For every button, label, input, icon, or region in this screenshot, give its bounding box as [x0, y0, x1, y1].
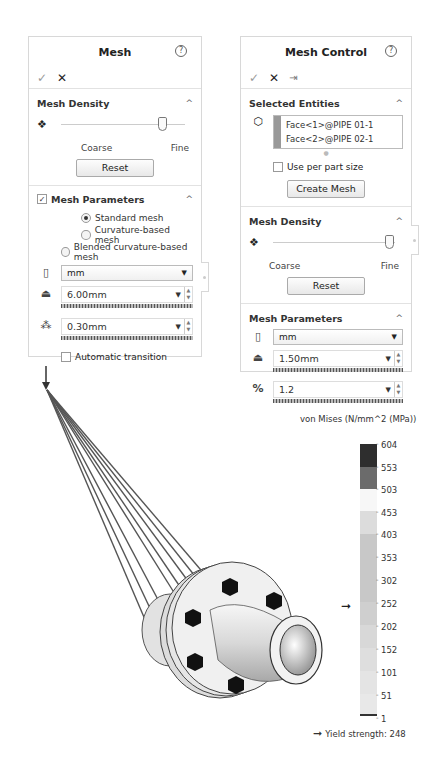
tick-label: 453: [381, 508, 397, 518]
collapse-caret-icon[interactable]: ^: [185, 98, 193, 108]
dropdown-arrow-icon[interactable]: ▼: [176, 323, 181, 331]
tolerance-spinbox[interactable]: 0.30mm ▼▲▼: [61, 318, 193, 335]
section-title: Selected Entities: [249, 98, 340, 109]
radio-standard-mesh[interactable]: Standard mesh: [37, 209, 193, 226]
collapse-caret-icon[interactable]: ^: [395, 98, 403, 108]
collapse-caret-icon[interactable]: ^: [185, 194, 193, 204]
reset-button[interactable]: Reset: [287, 277, 365, 295]
reset-button[interactable]: Reset: [76, 159, 154, 177]
tick-label: 553: [381, 463, 397, 473]
tick-label: 1: [381, 714, 386, 724]
tick-label: 202: [381, 622, 397, 632]
colorbar-segment: [360, 534, 377, 556]
unit-ruler-icon: ▯: [249, 329, 267, 345]
mesh-control-panel: Mesh Control ? ✓ ✕ ⇥ Selected Entities ^…: [240, 36, 412, 372]
tick-label: 252: [381, 599, 397, 609]
mesh-density-icon: ❖: [249, 236, 259, 249]
colorbar-segment: [360, 625, 377, 648]
arrow-right-icon: ➞: [313, 727, 322, 740]
radio-button[interactable]: [81, 213, 91, 223]
unit-dropdown[interactable]: mm ▼: [273, 329, 403, 345]
size-ruler-slider[interactable]: [61, 304, 193, 308]
create-mesh-button[interactable]: Create Mesh: [287, 180, 365, 198]
collapse-caret-icon[interactable]: ^: [395, 313, 403, 323]
radio-button[interactable]: [61, 247, 70, 257]
face-selection-icon: ⬡: [249, 115, 267, 149]
list-resize-handle[interactable]: ●: [249, 149, 403, 157]
tick-label: 302: [381, 576, 397, 586]
colorbar-segment: [360, 511, 377, 534]
action-bar: ✓ ✕ ⇥: [241, 67, 411, 89]
tick-label: 604: [381, 440, 397, 450]
yield-strength-label: Yield strength: 248: [325, 729, 406, 739]
colorbar-segment: [360, 648, 377, 671]
panel-title: Mesh: [99, 46, 132, 59]
colorbar-segment: [360, 467, 377, 489]
selection-color-bar: [274, 116, 281, 148]
section-title: Mesh Parameters: [249, 313, 343, 324]
dropdown-arrow-icon: ▼: [392, 333, 397, 341]
mesh-density-slider[interactable]: [61, 124, 185, 125]
use-per-part-size-checkbox[interactable]: [273, 162, 283, 172]
tolerance-ruler-slider[interactable]: [61, 336, 193, 340]
ok-checkmark-icon[interactable]: ✓: [37, 71, 47, 85]
dropdown-arrow-icon[interactable]: ▼: [386, 355, 391, 363]
section-title: Mesh Density: [249, 216, 321, 227]
panel-title: Mesh Control: [285, 46, 367, 59]
colorbar-segment: [360, 602, 377, 625]
selected-entities-section: Selected Entities ^ ⬡ Face<1>@PIPE 01-1 …: [241, 89, 411, 207]
spin-arrows-icon[interactable]: ▲▼: [394, 382, 402, 397]
section-title: Mesh Parameters: [51, 194, 145, 205]
radio-curvature-based-mesh[interactable]: Curvature-based mesh: [37, 226, 193, 243]
tick-label: 152: [381, 645, 397, 655]
cancel-x-icon[interactable]: ✕: [57, 71, 67, 85]
panel-resize-tab[interactable]: [201, 262, 209, 292]
spin-arrows-icon[interactable]: ▲▼: [184, 287, 192, 302]
selected-entities-list[interactable]: Face<1>@PIPE 01-1 Face<2>@PIPE 02-1: [273, 115, 403, 149]
tick-label: 503: [381, 485, 397, 495]
action-bar: ✓ ✕: [29, 67, 201, 89]
list-item[interactable]: Face<1>@PIPE 01-1: [286, 118, 374, 132]
colorbar-segment: [360, 489, 377, 511]
spin-arrows-icon[interactable]: ▲▼: [394, 351, 402, 366]
radio-blended-curvature-mesh[interactable]: Blended curvature-based mesh: [37, 243, 193, 260]
colorbar-segment: [360, 671, 377, 694]
collapse-caret-icon[interactable]: ^: [395, 216, 403, 226]
unit-dropdown[interactable]: mm ▼: [61, 265, 193, 281]
cancel-x-icon[interactable]: ✕: [269, 71, 279, 85]
mesh-density-section: Mesh Density ^ ❖ Coarse Fine Reset: [241, 207, 411, 304]
mesh-density-section: Mesh Density ^ ❖ Coarse Fine Reset: [29, 89, 201, 186]
mesh-panel: Mesh ? ✓ ✕ Mesh Density ^ ❖ Coarse Fine …: [28, 36, 202, 357]
slider-thumb[interactable]: [385, 235, 394, 249]
ok-checkmark-icon[interactable]: ✓: [249, 71, 259, 85]
mesh-panel-header: Mesh ?: [29, 37, 201, 67]
tick-label: 51: [381, 691, 392, 701]
tick-label: 403: [381, 530, 397, 540]
dropdown-arrow-icon[interactable]: ▼: [386, 386, 391, 394]
pipe-flange-model[interactable]: [30, 360, 330, 760]
global-size-spinbox[interactable]: 6.00mm ▼▲▼: [61, 286, 193, 303]
colorbar-segment: [360, 444, 377, 467]
dropdown-arrow-icon[interactable]: ▼: [176, 291, 181, 299]
mesh-density-icon: ❖: [37, 118, 47, 131]
use-per-part-size-option[interactable]: Use per part size: [249, 159, 403, 175]
help-icon[interactable]: ?: [385, 45, 397, 57]
panel-resize-tab[interactable]: [411, 225, 419, 255]
legend-title: von Mises (N/mm^2 (MPa)): [300, 414, 416, 424]
radio-button[interactable]: [81, 230, 91, 240]
global-size-icon: ⏏: [37, 286, 55, 302]
tick-label: 353: [381, 553, 397, 563]
fine-label: Fine: [381, 261, 399, 271]
mesh-parameters-checkbox[interactable]: ✓: [37, 194, 47, 204]
help-icon[interactable]: ?: [175, 45, 187, 57]
dropdown-arrow-icon: ▼: [182, 269, 187, 277]
mesh-density-slider[interactable]: [273, 242, 395, 243]
pin-icon[interactable]: ⇥: [289, 72, 297, 83]
colorbar-segment: [360, 694, 377, 716]
load-arrow-icon: [42, 366, 50, 390]
tick-label: 101: [381, 668, 397, 678]
spin-arrows-icon[interactable]: ▲▼: [184, 319, 192, 334]
list-item[interactable]: Face<2>@PIPE 02-1: [286, 132, 374, 146]
slider-thumb[interactable]: [158, 117, 167, 131]
colorbar-segment: [360, 556, 377, 579]
